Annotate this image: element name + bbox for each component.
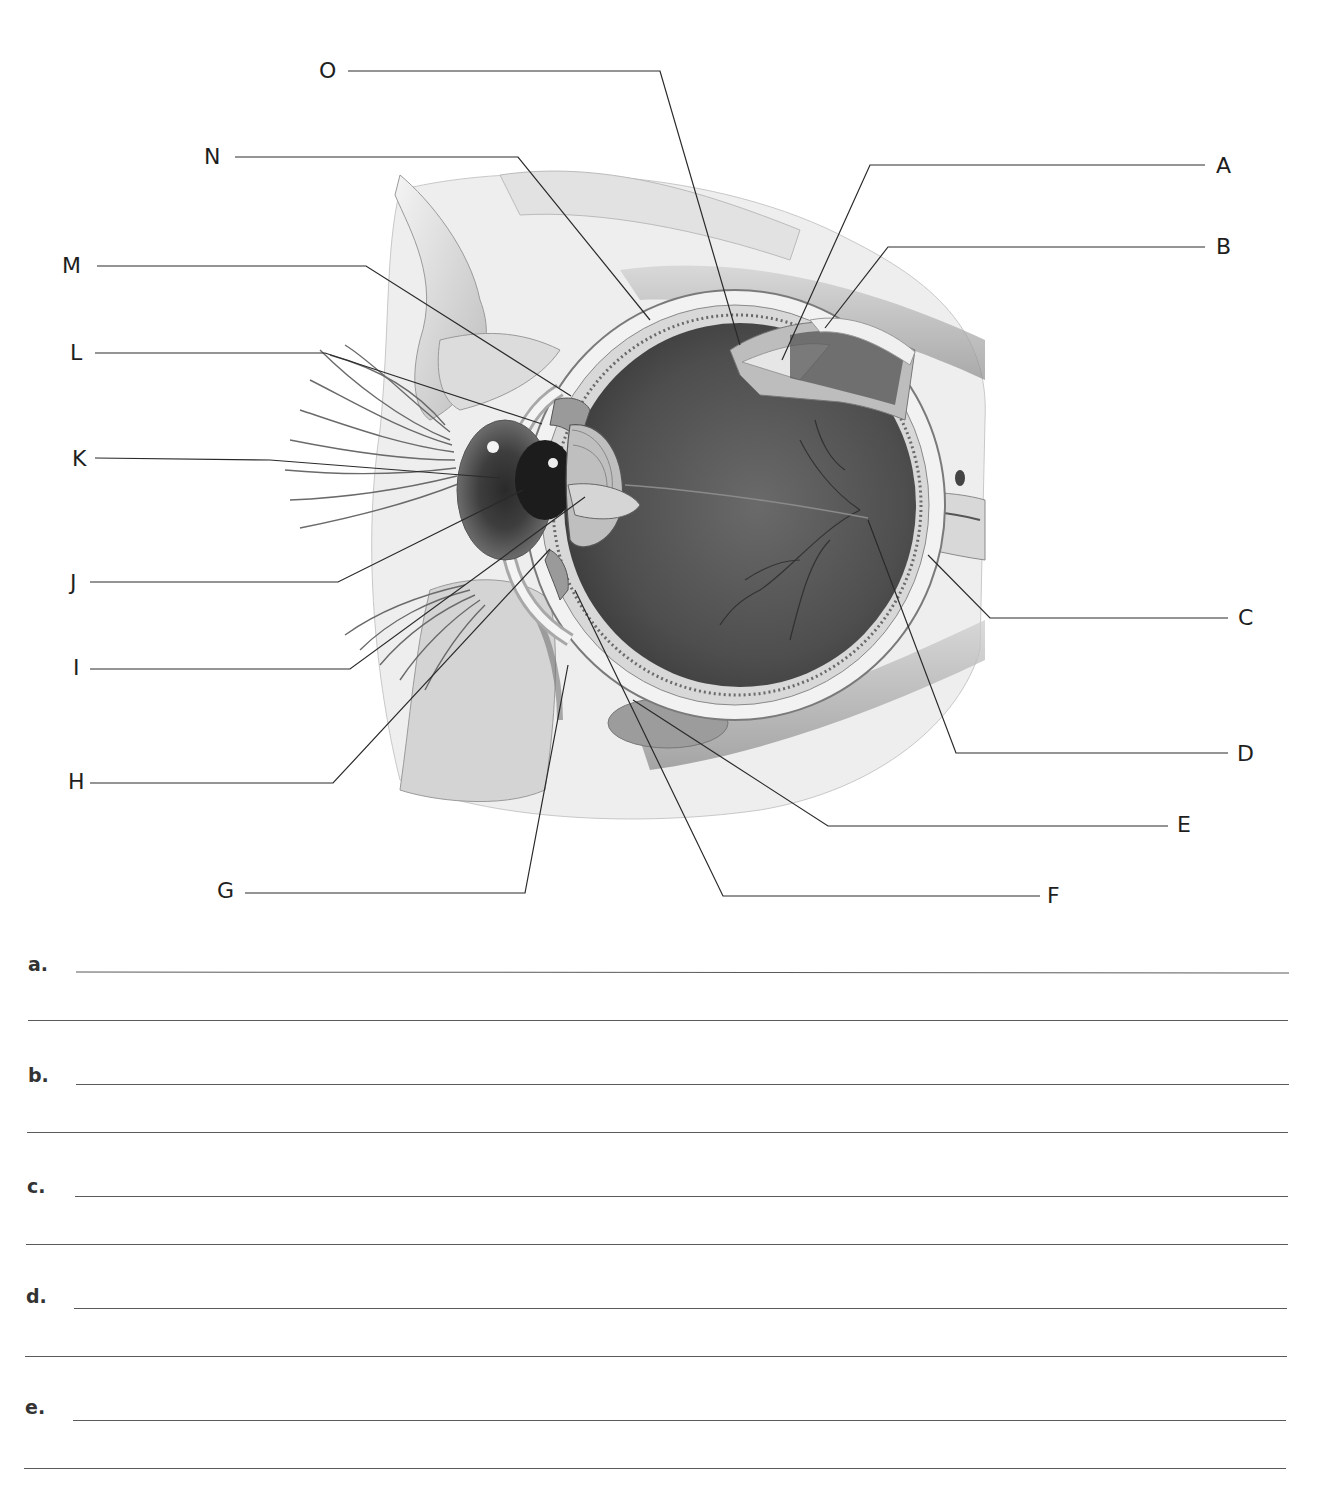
label-i: I — [73, 657, 80, 679]
answer-input-line[interactable] — [28, 1020, 1288, 1021]
answer-input-line[interactable] — [75, 1196, 1288, 1197]
answer-input-line[interactable] — [74, 1308, 1287, 1309]
answer-input-line[interactable] — [27, 1132, 1288, 1133]
eye-diagram: A B C D E F G H I J K L M N O — [0, 0, 1330, 930]
answer-input-line[interactable] — [76, 971, 1289, 973]
answer-letter: a. — [28, 953, 48, 975]
label-l: L — [70, 342, 82, 364]
answer-letter: d. — [26, 1285, 47, 1307]
label-o: O — [319, 60, 336, 82]
eye-illustration — [0, 0, 1330, 930]
label-e: E — [1177, 814, 1191, 836]
answer-input-line[interactable] — [73, 1420, 1286, 1421]
label-d: D — [1237, 743, 1254, 765]
answer-letter: b. — [28, 1064, 49, 1086]
label-h: H — [68, 771, 85, 793]
answer-letter: c. — [27, 1175, 45, 1197]
label-g: G — [217, 880, 234, 902]
label-a: A — [1216, 155, 1231, 177]
label-n: N — [204, 146, 220, 168]
answer-input-line[interactable] — [26, 1244, 1288, 1245]
label-m: M — [62, 255, 81, 277]
label-k: K — [72, 448, 86, 470]
label-c: C — [1238, 607, 1253, 629]
answer-input-line[interactable] — [24, 1468, 1286, 1469]
label-b: B — [1216, 236, 1231, 258]
answer-letter: e. — [25, 1396, 45, 1418]
label-f: F — [1047, 885, 1060, 907]
answer-input-line[interactable] — [25, 1356, 1287, 1357]
label-j: J — [70, 572, 77, 594]
answer-input-line[interactable] — [76, 1084, 1289, 1085]
